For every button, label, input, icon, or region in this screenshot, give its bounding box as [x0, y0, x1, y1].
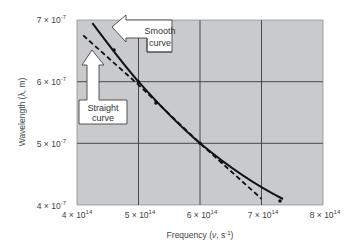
- x-axis-label: Frequency (ν, s-1): [167, 230, 234, 240]
- y-axis-label: Wavelength (λ, m): [17, 78, 27, 147]
- svg-text:4 × 1014: 4 × 1014: [62, 209, 93, 220]
- y-tick-6e-7: 6 × 10: [37, 77, 61, 87]
- svg-text:6 × 1014: 6 × 1014: [187, 209, 218, 220]
- y-axis-ticks: 7 × 10-7 6 × 10-7 5 × 10-7 4 × 10-7: [37, 14, 67, 211]
- y-tick-7e-7: 7 × 10: [37, 15, 61, 25]
- x-axis-ticks: 4 × 1014 5 × 1014 6 × 1014 7 × 1014 8 × …: [62, 209, 341, 220]
- svg-text:6 × 10-7: 6 × 10-7: [37, 76, 67, 87]
- svg-text:8 × 1014: 8 × 1014: [310, 209, 341, 220]
- x-tick-8e14: 8 × 10: [310, 210, 334, 220]
- x-tick-7e14: 7 × 10: [248, 210, 272, 220]
- chart: Smooth curve Straight curve 7 × 10-7 6 ×…: [0, 0, 352, 252]
- straight-curve-label-1: Straight: [87, 103, 119, 113]
- smooth-curve-label-1: Smooth: [144, 26, 175, 36]
- y-tick-5e-7: 5 × 10: [37, 139, 61, 149]
- x-tick-5e14: 5 × 10: [125, 210, 149, 220]
- smooth-curve-label-2: curve: [149, 38, 171, 48]
- x-tick-4e14: 4 × 10: [62, 210, 86, 220]
- svg-text:7 × 1014: 7 × 1014: [248, 209, 279, 220]
- straight-curve-label-2: curve: [92, 113, 114, 123]
- svg-text:7 × 10-7: 7 × 10-7: [37, 14, 67, 25]
- y-tick-4e-7: 4 × 10: [37, 201, 61, 211]
- x-tick-6e14: 6 × 10: [187, 210, 211, 220]
- svg-text:5 × 10-7: 5 × 10-7: [37, 138, 67, 149]
- svg-text:5 × 1014: 5 × 1014: [125, 209, 156, 220]
